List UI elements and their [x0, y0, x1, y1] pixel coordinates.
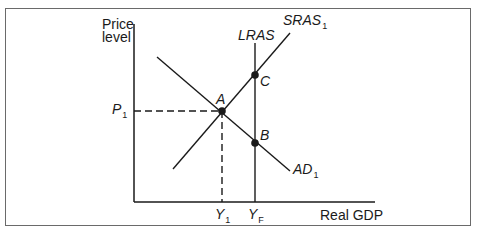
- sras1-label-subscript: 1: [322, 21, 327, 31]
- y-axis-label: Price level: [102, 17, 130, 44]
- p1-label-text: P: [112, 101, 121, 117]
- sras1-label-text: SRAS: [283, 12, 321, 28]
- y1-label-text: Y: [215, 206, 224, 222]
- point-c-marker: [251, 71, 259, 79]
- point-b-label: B: [260, 128, 269, 142]
- yf-tick-label: YF: [248, 207, 264, 221]
- x-axis-label: Real GDP: [320, 208, 383, 222]
- sras1-label: SRAS1: [283, 13, 327, 27]
- p1-tick-label: P1: [112, 102, 127, 116]
- p1-label-subscript: 1: [122, 110, 127, 120]
- lras-label: LRAS: [238, 28, 275, 42]
- ad1-label-text: AD: [293, 161, 312, 177]
- ad1-label: AD1: [293, 162, 318, 176]
- yf-label-subscript: F: [258, 215, 264, 225]
- y-axis-label-line2: level: [102, 30, 130, 44]
- point-b-marker: [251, 139, 259, 147]
- point-c-label: C: [260, 74, 270, 88]
- ad1-label-subscript: 1: [313, 170, 318, 180]
- lras-label-text: LRAS: [238, 27, 275, 43]
- y1-label-subscript: 1: [225, 215, 230, 225]
- point-a-marker: [218, 107, 226, 115]
- y1-tick-label: Y1: [215, 207, 230, 221]
- point-a-label: A: [216, 92, 225, 106]
- yf-label-text: Y: [248, 206, 257, 222]
- sras1-curve: [173, 33, 290, 169]
